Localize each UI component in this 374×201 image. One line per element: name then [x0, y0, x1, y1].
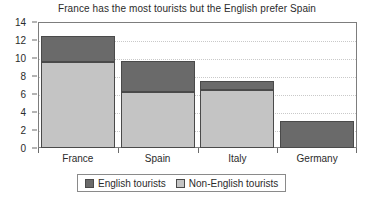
y-axis-tick-label: 12: [15, 35, 26, 46]
y-axis-tick-mark: [32, 94, 37, 95]
x-axis-label-germany: Germany: [297, 153, 338, 164]
chart-legend: English touristsNon-English tourists: [77, 174, 286, 192]
bar-segment: [121, 92, 195, 148]
x-axis-label-spain: Spain: [145, 153, 171, 164]
y-axis-tick-mark: [32, 76, 37, 77]
y-axis-tick-mark: [32, 112, 37, 113]
bar-segment: [121, 61, 195, 93]
y-axis-tick-mark: [32, 58, 37, 59]
bar-group: [41, 22, 115, 148]
y-axis-tick-label: 2: [20, 125, 26, 136]
chart-title: France has the most tourists but the Eng…: [0, 3, 374, 14]
bar-segment: [200, 81, 274, 90]
legend-label: Non-English tourists: [189, 178, 278, 189]
y-axis: 02468101214: [0, 22, 32, 148]
legend-label: English tourists: [98, 178, 166, 189]
legend-swatch-icon: [85, 179, 94, 188]
x-axis-label-italy: Italy: [228, 153, 246, 164]
bar-segment: [200, 90, 274, 148]
y-axis-tick-mark: [32, 22, 37, 23]
chart-container: France has the most tourists but the Eng…: [0, 0, 374, 201]
legend-swatch-icon: [176, 179, 185, 188]
bar-group: [200, 22, 274, 148]
bars-layer: [38, 22, 357, 148]
y-axis-tick-label: 4: [20, 107, 26, 118]
legend-item: English tourists: [85, 178, 166, 189]
bar-segment: [280, 121, 354, 148]
y-axis-tick-mark: [32, 40, 37, 41]
y-axis-tick-label: 14: [15, 17, 26, 28]
bar-segment: [41, 36, 115, 61]
bar-segment: [41, 62, 115, 148]
bar-group: [280, 22, 354, 148]
y-axis-tick-mark: [32, 148, 37, 149]
bar-group: [121, 22, 195, 148]
y-axis-tick-label: 6: [20, 89, 26, 100]
y-axis-tick-label: 0: [20, 143, 26, 154]
legend-item: Non-English tourists: [176, 178, 278, 189]
y-axis-tick-mark: [32, 130, 37, 131]
y-axis-tick-label: 10: [15, 53, 26, 64]
y-axis-tick-label: 8: [20, 71, 26, 82]
x-axis: FranceSpainItalyGermany: [38, 153, 357, 169]
x-axis-label-france: France: [62, 153, 93, 164]
